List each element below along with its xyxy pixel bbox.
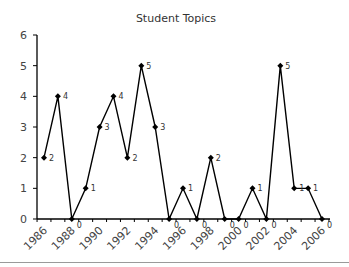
data-label: 2 (216, 154, 221, 163)
data-label: 0 (271, 221, 276, 230)
diamond-marker-icon (194, 216, 200, 222)
data-label: 2 (49, 154, 54, 163)
data-series: 240134253010200105110 (41, 62, 332, 230)
y-tick-label: 1 (20, 182, 27, 195)
y-tick-label: 0 (20, 213, 27, 226)
diamond-marker-icon (97, 124, 103, 130)
x-tick-label: 1986 (21, 224, 50, 253)
diamond-marker-icon (111, 93, 117, 99)
diamond-marker-icon (277, 63, 283, 69)
data-label: 0 (230, 221, 235, 230)
y-tick-label: 3 (20, 121, 27, 134)
data-label: 0 (244, 221, 249, 230)
data-label: 1 (188, 184, 193, 193)
y-tick-label: 6 (20, 29, 27, 42)
diamond-marker-icon (180, 185, 186, 191)
y-axis: 0123456 (20, 29, 37, 226)
diamond-marker-icon (69, 216, 75, 222)
line-chart: Student Topics 0123456 19861988199019921… (0, 0, 349, 267)
x-tick-label: 1988 (49, 224, 78, 253)
diamond-marker-icon (55, 93, 61, 99)
data-label: 0 (174, 221, 179, 230)
diamond-marker-icon (291, 185, 297, 191)
data-label: 5 (146, 62, 151, 71)
diamond-marker-icon (83, 185, 89, 191)
y-tick-label: 5 (20, 60, 27, 73)
diamond-marker-icon (152, 124, 158, 130)
diamond-marker-icon (319, 216, 325, 222)
diamond-marker-icon (250, 185, 256, 191)
diamond-marker-icon (166, 216, 172, 222)
y-tick-label: 2 (20, 152, 27, 165)
data-label: 0 (77, 221, 82, 230)
x-tick-label: 1994 (132, 224, 161, 253)
diamond-marker-icon (138, 63, 144, 69)
diamond-marker-icon (41, 155, 47, 161)
diamond-marker-icon (208, 155, 214, 161)
data-label: 4 (63, 92, 68, 101)
diamond-marker-icon (222, 216, 228, 222)
data-label: 3 (105, 123, 110, 132)
series-line (44, 66, 322, 219)
data-label: 5 (285, 62, 290, 71)
data-label: 1 (258, 184, 263, 193)
data-label: 1 (91, 184, 96, 193)
data-label: 3 (160, 123, 165, 132)
bottom-divider (0, 262, 349, 263)
y-tick-label: 4 (20, 90, 27, 103)
x-tick-label: 2006 (299, 224, 328, 253)
diamond-marker-icon (124, 155, 130, 161)
data-label: 1 (299, 184, 304, 193)
data-label: 1 (313, 184, 318, 193)
data-label: 0 (202, 221, 207, 230)
data-label: 4 (119, 92, 124, 101)
data-label: 0 (327, 221, 332, 230)
data-label: 2 (132, 154, 137, 163)
diamond-marker-icon (305, 185, 311, 191)
chart-title: Student Topics (136, 12, 216, 25)
diamond-marker-icon (236, 216, 242, 222)
x-tick-label: 1992 (105, 224, 134, 253)
diamond-marker-icon (263, 216, 269, 222)
